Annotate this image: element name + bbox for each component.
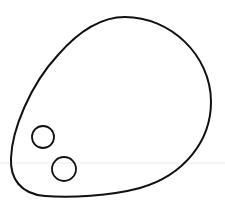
small-circle-lower (52, 157, 76, 181)
diagram-canvas (0, 0, 225, 207)
egg-outline-shape (11, 17, 211, 197)
small-circle-upper (32, 126, 54, 148)
